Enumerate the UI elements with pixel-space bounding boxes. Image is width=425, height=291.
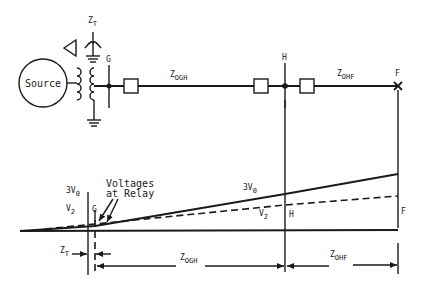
- left-3v0-label: 3V0: [66, 186, 80, 198]
- zt-label: ZT: [88, 16, 98, 28]
- breaker-g: [124, 79, 138, 93]
- tertiary-winding: ZT: [64, 16, 101, 62]
- line-gh-label: ZOGH: [170, 70, 187, 82]
- source-label: Source: [25, 78, 61, 89]
- dim-zogh-label: ZOGH: [180, 253, 197, 265]
- impedance-dimensions: ZT ZOGH ZOHF: [60, 246, 397, 266]
- breaker-h-right: [300, 79, 314, 93]
- annotation-arrow-1: [99, 199, 113, 221]
- left-v2-label: V2: [66, 204, 75, 216]
- dim-zt-label: ZT: [60, 246, 70, 258]
- bus-g-label: G: [106, 55, 111, 64]
- series-3v0-line: [20, 174, 398, 231]
- mid-v2-label: V2: [259, 209, 268, 221]
- bus-h: H: [282, 53, 288, 108]
- profile-h-label: H: [289, 210, 294, 219]
- delta-icon: [64, 40, 76, 56]
- profile-f-label: F: [401, 207, 406, 216]
- annotation-arrow-2: [107, 199, 118, 222]
- profile-g-label: G: [92, 205, 97, 214]
- annotation-line2: at Relay: [106, 188, 154, 199]
- line-hf-label: ZOHF: [337, 69, 354, 81]
- dim-zohf-label: ZOHF: [330, 250, 347, 262]
- breaker-h-left: [254, 79, 268, 93]
- one-line-diagram: Source ZT: [19, 16, 402, 126]
- zero-voltage-baseline: [20, 230, 398, 231]
- series-v2-line: [45, 196, 398, 229]
- mid-3v0-label: 3V0: [243, 183, 257, 195]
- fault-label: F: [395, 69, 400, 78]
- tertiary-ground-icon: [86, 56, 100, 62]
- relay-voltage-profile-diagram: Source ZT: [0, 0, 425, 291]
- bus-h-label: H: [282, 53, 287, 62]
- bus-g: G: [106, 55, 112, 108]
- transformer-icon: [77, 68, 101, 126]
- source-generator: Source: [19, 59, 77, 107]
- ground-icon: [87, 120, 101, 126]
- voltage-profile: 3V0 V2 G Voltages at Relay 3V0 V2 H F: [20, 90, 406, 275]
